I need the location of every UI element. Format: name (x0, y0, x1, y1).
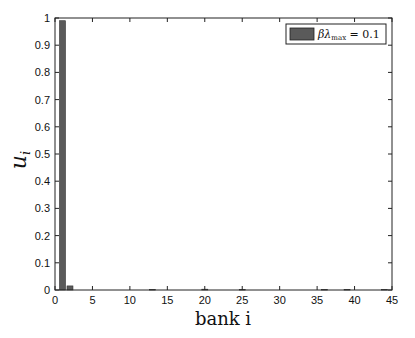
bar (67, 286, 73, 290)
x-tick-label: 45 (386, 294, 398, 306)
y-tick-label: 0.5 (35, 148, 50, 160)
legend-swatch (290, 28, 314, 40)
y-tick-label: 0.3 (35, 202, 50, 214)
legend: βλmax = 0.1 (286, 24, 386, 44)
y-tick-label: 0 (44, 284, 50, 296)
y-tick-label: 0.9 (35, 39, 50, 51)
x-tick-label: 0 (52, 294, 58, 306)
x-tick-label: 30 (274, 294, 286, 306)
y-tick-label: 0.2 (35, 230, 50, 242)
y-tick-label: 0.8 (35, 66, 50, 78)
x-tick-label: 25 (236, 294, 248, 306)
x-tick-label: 10 (124, 294, 136, 306)
y-tick-label: 0.4 (35, 175, 50, 187)
bar-chart: 05101520253035404500.10.20.30.40.50.60.7… (0, 0, 415, 338)
plot-background (55, 18, 392, 290)
legend-label: βλmax = 0.1 (317, 28, 380, 42)
y-axis-label: ui (6, 151, 33, 169)
x-tick-label: 15 (161, 294, 173, 306)
y-tick-label: 0.1 (35, 257, 50, 269)
y-tick-label: 0.6 (35, 121, 50, 133)
bar (59, 21, 65, 290)
x-tick-label: 20 (199, 294, 211, 306)
x-tick-label: 5 (89, 294, 95, 306)
x-tick-label: 35 (311, 294, 323, 306)
y-tick-label: 1 (44, 12, 50, 24)
plot-area (55, 18, 392, 290)
x-axis-label: bank i (195, 308, 251, 329)
y-tick-label: 0.7 (35, 94, 50, 106)
x-tick-label: 40 (348, 294, 360, 306)
